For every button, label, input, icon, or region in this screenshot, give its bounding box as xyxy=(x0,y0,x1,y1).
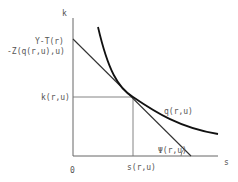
s-level-label: s(r,u) xyxy=(127,163,156,172)
angle-label: Ψ(r,u) xyxy=(158,146,187,155)
tangency-diagram: k s 0 Y-T(r) -Z(q(r,u),u) k(r,u) s(r,u) … xyxy=(0,0,238,182)
intercept-label-line2: -Z(q(r,u),u) xyxy=(7,47,65,56)
x-axis-label: s xyxy=(224,158,229,167)
intercept-label-line1: Y-T(r) xyxy=(35,37,64,46)
origin-label: 0 xyxy=(70,166,75,175)
k-level-label: k(r,u) xyxy=(41,93,70,102)
y-axis-label: k xyxy=(62,9,67,18)
curve-label: q(r,u) xyxy=(164,107,193,116)
indifference-curve xyxy=(98,27,218,134)
tangent-line xyxy=(73,39,191,156)
